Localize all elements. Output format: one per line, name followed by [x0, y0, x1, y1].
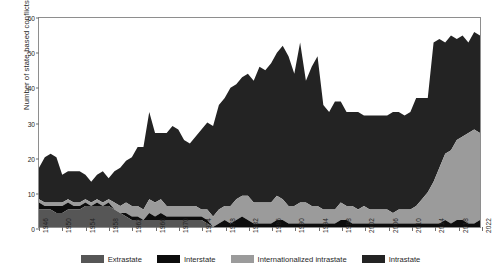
legend-swatch-icon [157, 255, 180, 263]
y-tick-mark [36, 53, 39, 54]
x-tick-label: 1990 [298, 218, 305, 233]
x-tick-label: 1958 [112, 218, 119, 233]
x-tick-mark [86, 227, 87, 231]
y-tick-label: 30 [28, 120, 35, 127]
stacked-area-chart: Number of state-based conflicts 01020304… [0, 0, 501, 275]
x-tick-label: 1986 [275, 218, 282, 233]
x-tick-mark [202, 227, 203, 231]
x-tick-label: 1970 [182, 218, 189, 233]
x-tick-mark [109, 227, 110, 231]
x-tick-mark [272, 227, 273, 231]
y-tick-label: 0 [31, 226, 35, 233]
x-tick-mark [435, 227, 436, 231]
x-tick-label: 1994 [322, 218, 329, 233]
y-tick-label: 60 [28, 15, 35, 22]
x-tick-label: 1962 [135, 218, 142, 233]
legend-swatch-icon [362, 255, 385, 263]
y-tick-label: 20 [28, 155, 35, 162]
x-tick-label: 1982 [252, 218, 259, 233]
x-tick-mark [179, 227, 180, 231]
x-tick-label: 2002 [368, 218, 375, 233]
x-tick-mark [412, 227, 413, 231]
area-series-group [39, 18, 480, 227]
x-tick-mark [132, 227, 133, 231]
x-tick-mark [295, 227, 296, 231]
x-tick-mark [459, 227, 460, 231]
legend-item-interstate[interactable]: Interstate [157, 255, 216, 264]
legend-item-label: Extrastate [108, 255, 142, 264]
x-tick-mark [249, 227, 250, 231]
x-tick-label: 2018 [462, 218, 469, 233]
x-tick-mark [62, 227, 63, 231]
x-tick-mark [342, 227, 343, 231]
y-tick-mark [36, 123, 39, 124]
chart-legend: ExtrastateInterstateInternationalized in… [0, 252, 501, 266]
legend-item-internationalized-intrastate[interactable]: Internationalized intrastate [231, 255, 347, 264]
x-tick-label: 2022 [485, 218, 492, 233]
y-tick-label: 40 [28, 85, 35, 92]
x-tick-mark [365, 227, 366, 231]
x-tick-mark [39, 227, 40, 231]
x-tick-label: 2014 [438, 218, 445, 233]
y-tick-mark [36, 18, 39, 19]
y-tick-label: 50 [28, 50, 35, 57]
x-tick-mark [389, 227, 390, 231]
x-tick-label: 2010 [415, 218, 422, 233]
legend-item-label: Interstate [184, 255, 216, 264]
y-tick-mark [36, 158, 39, 159]
x-tick-label: 1998 [345, 218, 352, 233]
x-tick-label: 1954 [89, 218, 96, 233]
x-tick-label: 1966 [159, 218, 166, 233]
legend-swatch-icon [81, 255, 104, 263]
y-tick-label: 10 [28, 190, 35, 197]
x-tick-mark [156, 227, 157, 231]
legend-swatch-icon [231, 255, 254, 263]
y-tick-mark [36, 88, 39, 89]
legend-item-label: Internationalized intrastate [258, 255, 347, 264]
x-tick-mark [319, 227, 320, 231]
x-tick-label: 2006 [392, 218, 399, 233]
y-tick-mark [36, 193, 39, 194]
area-band-intrastate [39, 32, 480, 217]
x-tick-mark [226, 227, 227, 231]
legend-item-intrastate[interactable]: Intrastate [362, 255, 421, 264]
x-tick-label: 1974 [205, 218, 212, 233]
legend-item-extrastate[interactable]: Extrastate [81, 255, 142, 264]
x-tick-label: 1946 [42, 218, 49, 233]
legend-item-label: Intrastate [389, 255, 421, 264]
x-tick-label: 1950 [65, 218, 72, 233]
x-tick-mark [482, 227, 483, 231]
x-tick-label: 1978 [229, 218, 236, 233]
plot-area: 0102030405060 19461950195419581962196619… [38, 17, 481, 228]
